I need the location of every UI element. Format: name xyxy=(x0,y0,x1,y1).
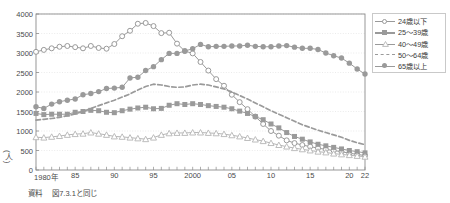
data-point xyxy=(57,44,62,49)
data-point xyxy=(72,96,77,101)
data-point xyxy=(198,42,203,47)
legend-item-3[interactable]: 40～49歳 xyxy=(375,39,443,50)
data-point xyxy=(354,66,359,71)
data-point xyxy=(331,145,336,150)
data-point xyxy=(41,106,46,111)
legend-label: 40～49歳 xyxy=(395,39,428,50)
data-point xyxy=(276,133,281,138)
data-point xyxy=(127,75,132,80)
data-point xyxy=(49,112,54,117)
chart-legend: 24歳以下25～39歳40～49歳50～64歳65歳以上 xyxy=(372,13,446,73)
data-point xyxy=(128,107,133,112)
data-point xyxy=(260,44,265,49)
series-line xyxy=(36,44,365,108)
data-point xyxy=(347,60,352,65)
data-point xyxy=(237,100,242,105)
data-point xyxy=(261,117,266,122)
data-point xyxy=(182,48,187,53)
data-point xyxy=(143,105,148,110)
data-point xyxy=(229,43,234,48)
data-point xyxy=(307,46,312,51)
legend-item-2[interactable]: 25～39歳 xyxy=(375,27,443,38)
data-point xyxy=(245,111,250,116)
data-point xyxy=(331,53,336,58)
x-tick-label: 15 xyxy=(306,171,314,180)
legend-label: 65歳以上 xyxy=(395,61,427,72)
data-point xyxy=(57,99,62,104)
legend-item-4[interactable]: 50～64歳 xyxy=(375,50,443,61)
data-point xyxy=(65,97,70,102)
data-point xyxy=(151,64,156,69)
data-point xyxy=(81,46,86,51)
data-point xyxy=(104,86,109,91)
data-point xyxy=(128,28,133,33)
legend-label: 25～39歳 xyxy=(395,27,428,38)
data-point xyxy=(175,41,180,46)
data-point xyxy=(323,143,328,148)
data-point xyxy=(362,71,367,76)
x-tick-label: 1980年 xyxy=(34,171,58,182)
data-point xyxy=(73,45,78,50)
data-point xyxy=(214,77,219,82)
series-5 xyxy=(33,42,367,111)
data-point xyxy=(292,44,297,49)
legend-label: 24歳以下 xyxy=(395,16,427,27)
legend-key-filled-square-icon xyxy=(375,27,395,38)
legend-item-5[interactable]: 65歳以上 xyxy=(375,61,443,72)
data-point xyxy=(159,31,164,36)
data-point xyxy=(214,104,219,109)
data-point xyxy=(49,101,54,106)
data-point xyxy=(159,106,164,111)
legend-item-1[interactable]: 24歳以下 xyxy=(375,16,443,27)
x-tick-label: 20 xyxy=(345,171,353,180)
data-point xyxy=(120,34,125,39)
data-point xyxy=(182,102,187,107)
data-point xyxy=(269,121,274,126)
data-point xyxy=(88,130,94,135)
data-point xyxy=(104,110,109,115)
legend-key-open-circle-icon xyxy=(375,16,395,27)
data-point xyxy=(300,46,305,51)
data-point xyxy=(151,24,156,29)
data-point xyxy=(135,21,140,26)
data-point xyxy=(120,108,125,113)
data-point xyxy=(221,44,226,49)
data-point xyxy=(175,101,180,106)
data-point xyxy=(33,104,38,109)
data-point xyxy=(190,101,195,106)
data-point xyxy=(135,74,140,79)
data-point xyxy=(57,112,62,117)
data-point xyxy=(308,139,313,144)
data-point xyxy=(245,43,250,48)
data-point xyxy=(34,111,39,116)
x-tick-label: 90 xyxy=(110,171,118,180)
data-point xyxy=(167,30,172,35)
legend-key-filled-circle-icon xyxy=(375,61,395,72)
data-point xyxy=(80,92,85,97)
data-point xyxy=(237,43,242,48)
data-point xyxy=(206,44,211,49)
data-point xyxy=(222,83,227,88)
data-point xyxy=(276,125,281,130)
data-point xyxy=(143,68,148,73)
x-tick-label: 2000 xyxy=(184,171,201,180)
data-point xyxy=(41,47,46,52)
data-point xyxy=(261,121,266,126)
legend-key-dashed-line-icon xyxy=(375,50,395,61)
data-point xyxy=(167,103,172,108)
data-point xyxy=(245,107,250,112)
data-point xyxy=(96,89,101,94)
series-1 xyxy=(34,20,368,158)
data-point xyxy=(222,105,227,110)
data-point xyxy=(269,129,274,134)
data-point xyxy=(41,112,46,117)
data-point xyxy=(229,106,234,111)
data-point xyxy=(112,110,117,115)
data-point xyxy=(96,108,101,113)
source-label: 資料 xyxy=(28,189,42,198)
data-point xyxy=(65,43,70,48)
data-point xyxy=(237,109,242,114)
data-point xyxy=(166,51,171,56)
data-point xyxy=(112,85,117,90)
data-point xyxy=(253,114,258,119)
